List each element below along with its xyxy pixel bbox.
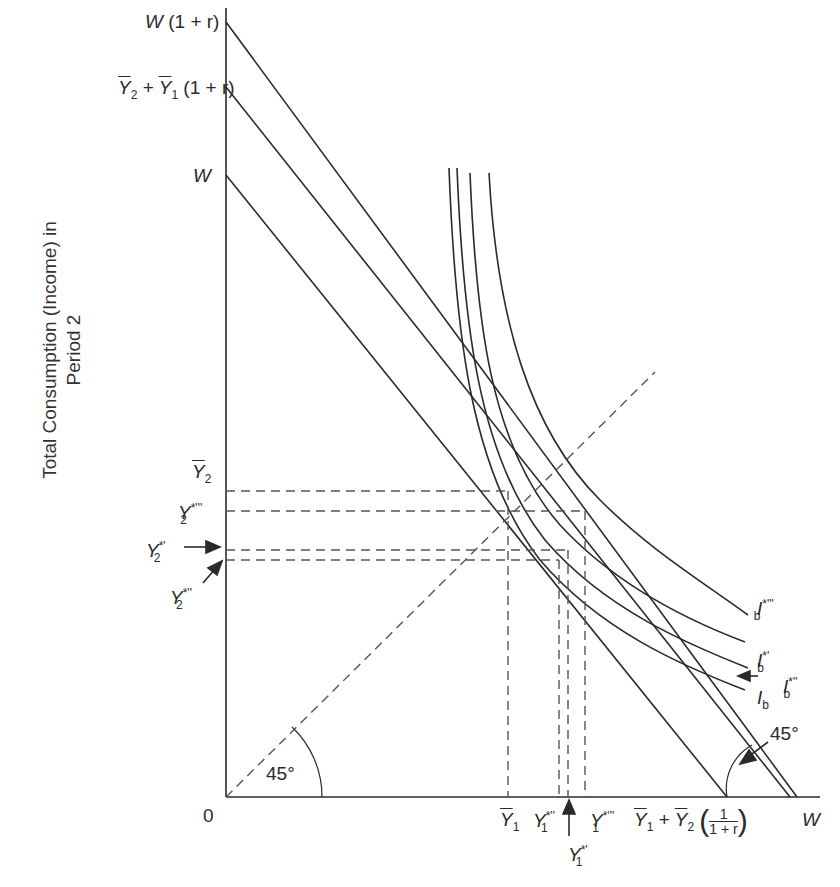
indifference-curve-ib	[449, 168, 745, 690]
label-y2-star-prime: Y*'2	[146, 540, 160, 564]
label-present-value-income: Y1 + Y2 (11 + r)	[634, 806, 748, 836]
label-ib-star-triple: I*'''b	[757, 598, 761, 622]
indifference-curve-ib1	[470, 173, 745, 642]
arrow-ib1-head	[738, 671, 750, 681]
label-y1-star-prime: Y*'1	[568, 844, 582, 868]
intertemporal-consumption-diagram	[0, 0, 840, 887]
label-y2-star-triple: Y*'''2	[178, 502, 187, 526]
indifference-curve-ib2	[457, 168, 748, 668]
y-axis-title-line2: Period 2	[62, 140, 86, 560]
label-ib-star-prime: I*'b	[757, 650, 764, 674]
label-y2-plus-y1-1-plus-r: Y2 + Y1 (1 + r)	[118, 78, 235, 101]
arrow-y1s1-head	[563, 800, 575, 814]
label-y1-star-triple: Y*'''1	[590, 810, 599, 834]
label-w-intercept: W	[193, 166, 211, 185]
angle-arc-left	[292, 727, 322, 797]
origin-label: 0	[203, 806, 214, 825]
label-ib-star-double: I*''b	[783, 676, 790, 700]
arrow-y2s1-head	[206, 541, 220, 553]
label-ybar2: Y2	[192, 462, 211, 485]
arrow-y2s2-head	[208, 561, 222, 575]
label-y2-star-double: Y*''2	[170, 587, 183, 611]
arrow-45-right	[752, 742, 768, 754]
angle-label-left: 45°	[266, 764, 295, 783]
label-y1-star-double: Y*''1	[533, 810, 548, 834]
label-w-x-intercept: W	[802, 810, 820, 829]
label-ybar1: Y1	[500, 810, 519, 833]
angle-label-right: 45°	[770, 724, 799, 743]
label-ib: Ib	[757, 688, 769, 711]
y-axis-title: Total Consumption (Income) in Period 2	[38, 140, 86, 560]
budget-line-w-1r	[226, 22, 797, 797]
label-w-1-plus-r: W (1 + r)	[145, 12, 219, 31]
y-axis-title-line1: Total Consumption (Income) in	[38, 140, 62, 560]
